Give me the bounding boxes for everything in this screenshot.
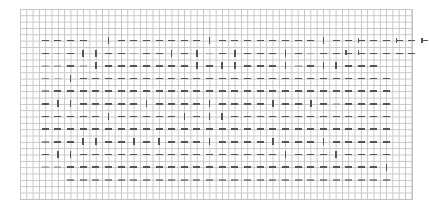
horizontal-dash-mark [345,65,352,67]
horizontal-dash-mark [383,141,390,143]
horizontal-dash-mark [269,65,276,67]
horizontal-dash-mark [345,103,352,105]
horizontal-dash-mark [282,78,289,80]
horizontal-dash-mark [257,53,264,55]
horizontal-dash-mark [143,90,150,92]
horizontal-dash-mark [231,154,238,156]
horizontal-dash-mark [80,154,87,156]
horizontal-dash-mark [67,53,74,55]
horizontal-dash-mark [307,65,314,67]
vertical-dash-mark [146,100,148,107]
horizontal-dash-mark [269,116,276,118]
horizontal-dash-mark [282,90,289,92]
horizontal-dash-mark [143,179,150,181]
horizontal-dash-mark [269,53,276,55]
horizontal-dash-mark [42,78,49,80]
horizontal-dash-mark [219,128,226,130]
horizontal-dash-mark [54,90,61,92]
horizontal-dash-mark [168,40,175,42]
horizontal-dash-mark [295,65,302,67]
horizontal-dash-mark [130,40,137,42]
horizontal-dash-mark [130,90,137,92]
horizontal-dash-mark [370,128,377,130]
horizontal-dash-mark [130,53,137,55]
horizontal-dash-mark [370,90,377,92]
horizontal-dash-mark [193,40,200,42]
horizontal-dash-mark [320,53,327,55]
horizontal-dash-mark [206,166,213,168]
horizontal-dash-mark [295,90,302,92]
horizontal-dash-mark [295,103,302,105]
horizontal-dash-mark [231,179,238,181]
horizontal-dash-mark [181,179,188,181]
horizontal-dash-mark [42,116,49,118]
horizontal-dash-mark [130,166,137,168]
horizontal-dash-mark [67,179,74,181]
horizontal-dash-mark [193,154,200,156]
horizontal-dash-mark [383,78,390,80]
horizontal-dash-mark [244,40,251,42]
horizontal-dash-mark [295,154,302,156]
horizontal-dash-mark [358,103,365,105]
arrow-head-icon [358,38,360,43]
horizontal-dash-mark [206,179,213,181]
horizontal-dash-mark [244,141,251,143]
horizontal-dash-mark [54,40,61,42]
horizontal-dash-mark [244,179,251,181]
horizontal-dash-mark [333,40,340,42]
horizontal-dash-mark [42,40,49,42]
horizontal-dash-mark [370,154,377,156]
horizontal-dash-mark [118,141,125,143]
horizontal-dash-mark [118,103,125,105]
horizontal-dash-mark [181,141,188,143]
horizontal-dash-mark [358,128,365,130]
horizontal-dash-mark [156,78,163,80]
horizontal-dash-mark [257,103,264,105]
horizontal-dash-mark [219,166,226,168]
horizontal-dash-mark [383,179,390,181]
horizontal-dash-mark [92,154,99,156]
horizontal-dash-mark [156,128,163,130]
horizontal-dash-mark [231,78,238,80]
horizontal-dash-mark [345,40,352,42]
horizontal-dash-mark [231,141,238,143]
horizontal-dash-mark [206,65,213,67]
horizontal-dash-mark [383,128,390,130]
vertical-dash-mark [335,62,337,69]
horizontal-dash-mark [333,116,340,118]
horizontal-dash-mark [80,40,87,42]
horizontal-dash-mark [181,103,188,105]
horizontal-dash-mark [118,179,125,181]
horizontal-dash-mark [358,65,365,67]
horizontal-dash-mark [168,179,175,181]
horizontal-dash-mark [269,128,276,130]
horizontal-dash-mark [358,116,365,118]
vertical-dash-mark [272,100,274,107]
horizontal-dash-mark [370,40,377,42]
horizontal-dash-mark [92,116,99,118]
horizontal-dash-mark [295,40,302,42]
horizontal-dash-mark [269,40,276,42]
horizontal-dash-mark [269,154,276,156]
horizontal-dash-mark [257,78,264,80]
horizontal-dash-mark [42,103,49,105]
horizontal-dash-mark [193,116,200,118]
horizontal-dash-mark [383,90,390,92]
horizontal-dash-mark [244,166,251,168]
horizontal-dash-mark [67,166,74,168]
vertical-dash-mark [234,50,236,57]
horizontal-dash-mark [370,103,377,105]
horizontal-dash-mark [42,166,49,168]
horizontal-dash-mark [307,40,314,42]
horizontal-dash-mark [54,65,61,67]
horizontal-dash-mark [206,90,213,92]
horizontal-dash-mark [193,78,200,80]
horizontal-dash-mark [345,78,352,80]
horizontal-dash-mark [80,78,87,80]
horizontal-dash-mark [257,179,264,181]
horizontal-dash-mark [282,166,289,168]
horizontal-dash-mark [156,90,163,92]
vertical-dash-mark [209,37,211,44]
horizontal-dash-mark [333,166,340,168]
horizontal-dash-mark [269,90,276,92]
